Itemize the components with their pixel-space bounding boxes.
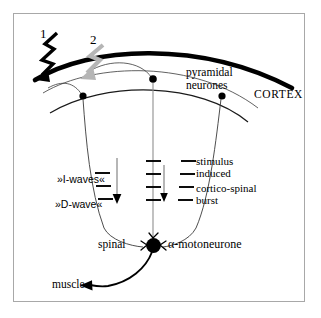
d-wave-label: »D-wave« <box>55 199 102 211</box>
middle-axon-direction-arrow <box>160 165 168 202</box>
muscle-label: muscle <box>52 278 85 291</box>
pyramidal-label-line2: neurones <box>186 79 228 91</box>
alpha-motoneurone-label: α-motoneurone <box>168 238 242 251</box>
right-axon-ticks <box>178 161 196 200</box>
cortex-label: CORTEX <box>254 88 303 101</box>
pyramidal-dendrite-left <box>48 83 82 95</box>
figure-root: 1 2 pyramidalneurones CORTEX stimulusind… <box>0 0 321 318</box>
left-axon-direction-arrow <box>113 158 122 204</box>
cortex-surface-arc <box>35 53 292 88</box>
stimulus-induced-label: stimulusinduced <box>196 155 233 180</box>
alpha-motoneurone-soma <box>146 238 161 253</box>
pyramidal-neurones-label: pyramidalneurones <box>186 66 233 92</box>
motor-axon-to-muscle <box>90 252 152 286</box>
spinal-label: spinal <box>98 238 125 251</box>
pyramidal-neurone-middle <box>149 75 157 83</box>
stimulus-label-line2: induced <box>196 167 231 179</box>
pyramidal-neurone-right <box>218 92 225 99</box>
cortico-label-line1: cortico-spinal <box>196 182 256 194</box>
cortico-label-line2: burst <box>196 194 218 206</box>
stimulus-label-line1: stimulus <box>196 155 233 167</box>
pyramidal-label-line1: pyramidal <box>186 66 233 78</box>
pyramidal-neurone-left <box>79 92 86 99</box>
i-waves-label: »I-waves« <box>57 174 105 186</box>
stimulus-2-number: 2 <box>90 33 97 48</box>
diagram-canvas <box>0 0 321 318</box>
cortico-spinal-burst-label: cortico-spinalburst <box>196 182 256 207</box>
stimulus-1-number: 1 <box>40 27 47 42</box>
